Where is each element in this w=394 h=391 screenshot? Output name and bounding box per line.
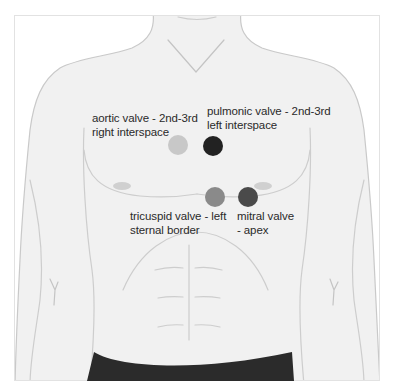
pulmonic-valve-label: pulmonic valve - 2nd-3rd left interspace bbox=[207, 104, 331, 132]
pulmonic-valve-dot bbox=[203, 136, 223, 156]
mitral-label-line1: mitral valve bbox=[237, 209, 294, 223]
torso-silhouette bbox=[15, 12, 380, 385]
tricuspid-valve-dot bbox=[205, 187, 225, 207]
torso-illustration bbox=[0, 0, 394, 391]
tricuspid-label-line2: sternal border bbox=[130, 223, 226, 237]
tricuspid-label-line1: tricuspid valve - left bbox=[130, 209, 226, 223]
pulmonic-label-line2: left interspace bbox=[207, 118, 331, 132]
mitral-valve-dot bbox=[238, 187, 258, 207]
aortic-label-line1: aortic valve - 2nd-3rd bbox=[92, 111, 198, 125]
right-nipple bbox=[254, 182, 272, 190]
pulmonic-label-line1: pulmonic valve - 2nd-3rd bbox=[207, 104, 331, 118]
aortic-valve-label: aortic valve - 2nd-3rd right interspace bbox=[92, 111, 198, 139]
tricuspid-valve-label: tricuspid valve - left sternal border bbox=[130, 209, 226, 237]
mitral-valve-label: mitral valve - apex bbox=[237, 209, 294, 237]
left-nipple bbox=[113, 182, 131, 190]
mitral-label-line2: - apex bbox=[237, 223, 294, 237]
aortic-label-line2: right interspace bbox=[92, 125, 198, 139]
